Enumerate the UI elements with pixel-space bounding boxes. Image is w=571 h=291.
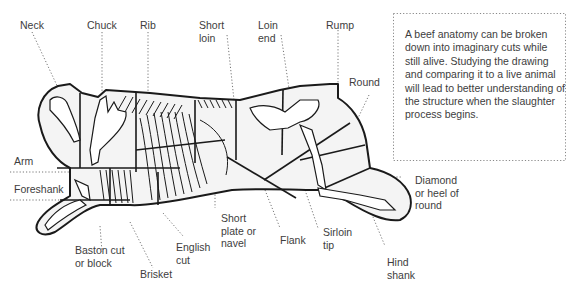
label-short-plate: Short plate or navel: [221, 212, 256, 250]
label-flank: Flank: [280, 234, 306, 247]
label-round: Round: [349, 76, 380, 89]
label-sirloin-tip: Sirloin tip: [323, 226, 352, 251]
label-baston-cut: Baston cut or block: [75, 244, 125, 269]
label-loin-end: Loin end: [258, 19, 278, 44]
label-rump: Rump: [326, 19, 354, 32]
note-box: A beef anatomy can be broken down into i…: [393, 13, 566, 161]
label-diamond-heel-of-round: Diamond or heel of round: [415, 174, 459, 212]
label-foreshank: Foreshank: [14, 183, 64, 196]
label-english-cut: English cut: [176, 241, 210, 266]
label-chuck: Chuck: [87, 19, 117, 32]
label-hind-shank: Hind shank: [387, 256, 415, 281]
label-short-loin: Short loin: [199, 19, 224, 44]
label-rib: Rib: [140, 19, 156, 32]
label-arm: Arm: [14, 155, 33, 168]
note-text: A beef anatomy can be broken down into i…: [405, 28, 565, 122]
label-neck: Neck: [20, 19, 44, 32]
label-brisket: Brisket: [140, 268, 172, 281]
